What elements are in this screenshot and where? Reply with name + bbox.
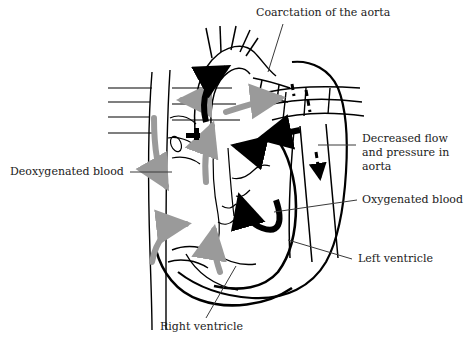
aortic-valve-marker	[186, 128, 200, 140]
superior-vena-cava-vessel-lines	[108, 88, 152, 133]
label-leader-lines	[130, 24, 357, 318]
label-coarctation-of-the-aorta: Coarctation of the aorta	[256, 6, 390, 20]
interventricular-septum	[213, 142, 270, 248]
left-ventricle-wall	[214, 138, 296, 289]
coarctation-of-aorta-figure: Coarctation of the aorta Deoxygenated bl…	[0, 0, 467, 354]
pulmonary-artery-vessels	[264, 87, 364, 120]
label-deoxygenated-blood: Deoxygenated blood	[10, 165, 124, 179]
label-decreased-flow-line1: Decreased flow	[362, 132, 448, 146]
label-decreased-flow-line3: aorta	[362, 160, 391, 174]
label-decreased-flow-line2: and pressure in	[362, 146, 449, 160]
label-oxygenated-blood: Oxygenated blood	[362, 193, 463, 207]
vena-cava-trunk	[149, 70, 170, 330]
deoxygenated-blood-arrows	[152, 98, 280, 272]
label-right-ventricle: Right ventricle	[160, 320, 243, 334]
label-left-ventricle: Left ventricle	[358, 252, 433, 266]
